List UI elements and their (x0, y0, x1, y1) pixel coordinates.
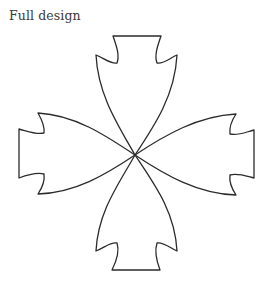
cross-design-figure (0, 0, 270, 287)
